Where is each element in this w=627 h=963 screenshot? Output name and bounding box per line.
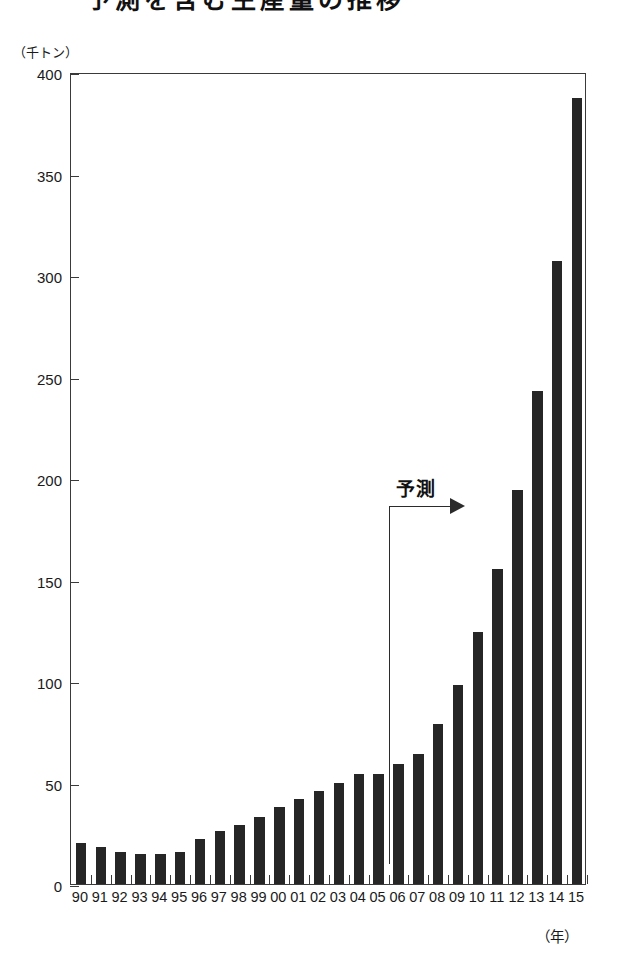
x-axis-tick-label: 15 [568, 889, 584, 905]
x-axis-tick [111, 875, 112, 884]
y-axis-tick-label: 150 [37, 573, 62, 590]
x-axis-tick [250, 875, 251, 884]
x-axis-tick-label: 04 [350, 889, 366, 905]
x-axis-tick-label: 05 [370, 889, 386, 905]
x-axis-tick [408, 875, 409, 884]
x-axis-tick [349, 875, 350, 884]
x-axis-tick-label: 07 [409, 889, 425, 905]
x-axis-tick [369, 875, 370, 884]
bar [115, 852, 126, 884]
x-axis-tick-label: 09 [449, 889, 465, 905]
chart-plot-area: 050100150200250300350400 予測 [70, 73, 586, 885]
x-axis-tick-label: 02 [310, 889, 326, 905]
y-axis-tick [70, 480, 79, 481]
x-axis-tick-label: 14 [548, 889, 564, 905]
x-axis-tick-label: 12 [508, 889, 524, 905]
bar [274, 807, 285, 884]
bar [294, 799, 305, 884]
x-axis-tick [131, 875, 132, 884]
y-axis-tick [70, 785, 79, 786]
x-axis-tick [190, 875, 191, 884]
x-axis-tick-label: 92 [112, 889, 128, 905]
y-axis-tick [70, 683, 79, 684]
y-axis-tick-label: 0 [54, 878, 62, 895]
bar [393, 764, 404, 884]
forecast-arrow-icon [450, 498, 465, 514]
x-axis-tick [210, 875, 211, 884]
forecast-horizontal-line [389, 506, 451, 507]
y-axis-tick [70, 74, 79, 75]
x-axis-tick-label: 93 [131, 889, 147, 905]
x-axis-tick-label: 10 [469, 889, 485, 905]
x-axis-tick-label: 99 [250, 889, 266, 905]
y-axis-tick [70, 379, 79, 380]
x-axis-tick [389, 875, 390, 884]
forecast-label: 予測 [396, 474, 436, 501]
y-axis-tick [70, 886, 79, 887]
bar [175, 852, 186, 884]
x-axis-tick-label: 06 [389, 889, 405, 905]
forecast-vertical-line [389, 506, 390, 864]
y-axis-tick-label: 400 [37, 66, 62, 83]
x-axis-tick [91, 875, 92, 884]
x-axis-tick-label: 00 [270, 889, 286, 905]
x-axis-tick [309, 875, 310, 884]
x-axis-tick [170, 875, 171, 884]
y-axis-tick-label: 100 [37, 675, 62, 692]
x-axis-tick-label: 95 [171, 889, 187, 905]
x-axis-tick-label: 90 [72, 889, 88, 905]
page-title: 予測を含む生産量の推移 [86, 0, 405, 15]
x-axis-tick-label: 13 [528, 889, 544, 905]
y-axis-tick-label: 200 [37, 472, 62, 489]
bar [135, 854, 146, 884]
bar [195, 839, 206, 884]
bar [413, 754, 424, 884]
x-axis-tick-label: 98 [231, 889, 247, 905]
y-axis-unit-label: （千トン） [13, 42, 78, 61]
x-axis-tick-label: 01 [290, 889, 306, 905]
bar [512, 490, 523, 884]
x-axis-tick-label: 96 [191, 889, 207, 905]
x-axis-tick [448, 875, 449, 884]
y-axis-tick [70, 277, 79, 278]
bar [473, 632, 484, 884]
x-axis-unit-label: （年） [536, 925, 578, 946]
bar [254, 817, 265, 884]
x-axis-tick [527, 875, 528, 884]
y-axis-tick-label: 250 [37, 370, 62, 387]
x-axis-tick-label: 91 [92, 889, 108, 905]
bar [532, 391, 543, 884]
bar [453, 685, 464, 884]
bar [215, 831, 226, 884]
bar [552, 261, 563, 884]
y-axis-tick [70, 582, 79, 583]
bar [76, 843, 87, 884]
y-axis-tick [70, 176, 79, 177]
bar [96, 847, 107, 884]
x-axis-tick [567, 875, 568, 884]
bar [433, 724, 444, 884]
x-axis-tick [289, 875, 290, 884]
x-axis-tick-label: 11 [489, 889, 504, 905]
x-axis-tick [547, 875, 548, 884]
bar [334, 783, 345, 885]
x-axis-tick [468, 875, 469, 884]
x-axis-tick-label: 97 [211, 889, 227, 905]
x-axis-tick-label: 03 [330, 889, 346, 905]
bar [572, 98, 583, 884]
bar [373, 774, 384, 884]
x-axis-tick [230, 875, 231, 884]
bar [155, 854, 166, 884]
bar [492, 569, 503, 884]
y-axis-tick-label: 300 [37, 269, 62, 286]
x-axis-tick [269, 875, 270, 884]
y-axis-tick-label: 50 [45, 776, 62, 793]
y-axis-tick-label: 350 [37, 167, 62, 184]
bar [234, 825, 245, 884]
x-axis-tick [488, 875, 489, 884]
x-axis-tick [329, 875, 330, 884]
x-axis-tick [587, 875, 588, 884]
x-axis-tick-label: 08 [429, 889, 445, 905]
x-axis-tick [508, 875, 509, 884]
bar [354, 774, 365, 884]
